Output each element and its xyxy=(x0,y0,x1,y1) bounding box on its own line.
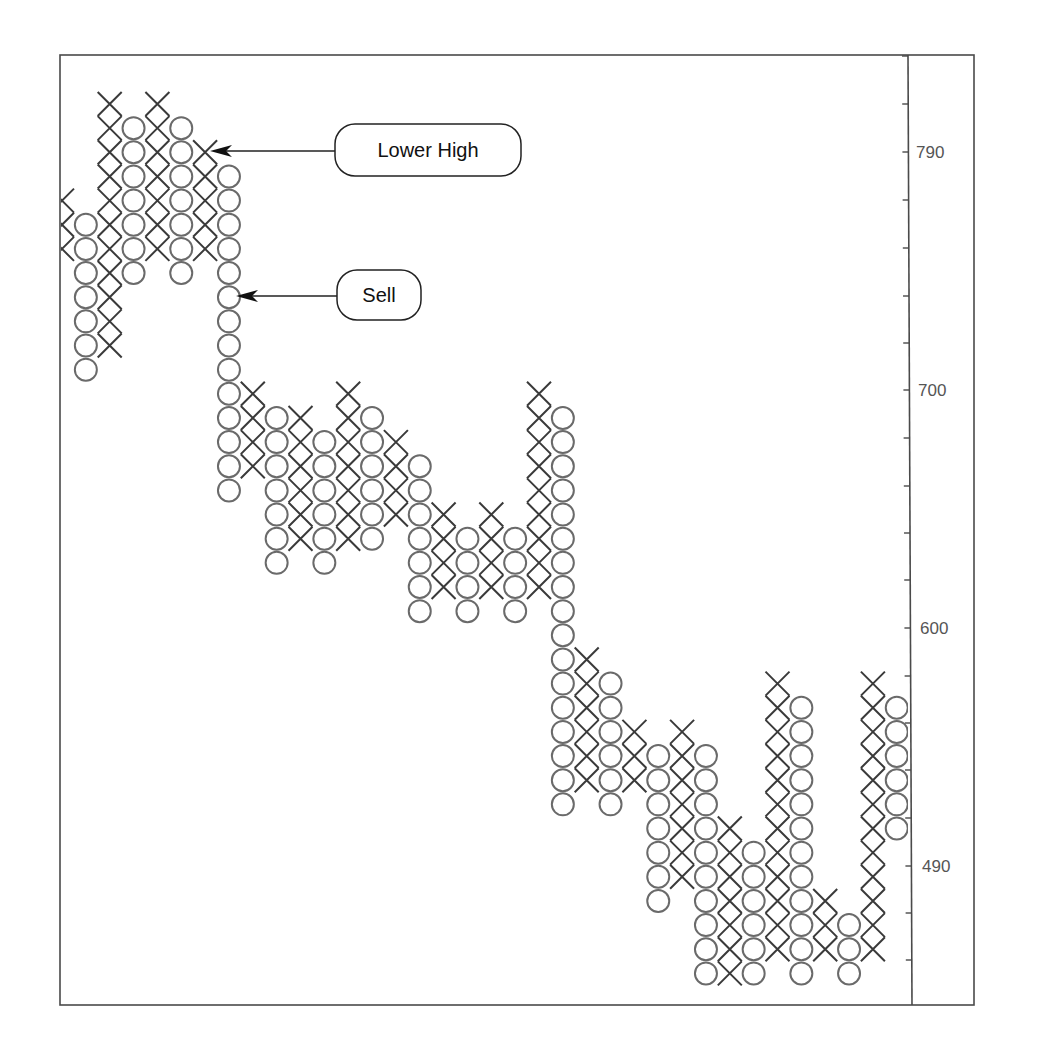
o-box xyxy=(218,479,240,501)
o-box xyxy=(409,455,431,477)
o-box xyxy=(456,528,478,550)
callout-lower-high: Lower High xyxy=(210,124,521,176)
o-box xyxy=(647,745,669,767)
o-box xyxy=(600,769,622,791)
o-box xyxy=(695,890,717,912)
x-box xyxy=(718,913,742,937)
o-box xyxy=(409,479,431,501)
x-box xyxy=(670,768,694,792)
x-box xyxy=(670,817,694,841)
o-box xyxy=(647,818,669,840)
o-box xyxy=(695,745,717,767)
x-box xyxy=(575,647,599,671)
x-box xyxy=(861,768,885,792)
callout-label: Lower High xyxy=(377,139,478,161)
x-box xyxy=(527,527,551,551)
x-box xyxy=(384,503,408,527)
x-box xyxy=(575,744,599,768)
o-box xyxy=(790,721,812,743)
x-box xyxy=(98,334,122,358)
x-box xyxy=(718,817,742,841)
x-box xyxy=(527,382,551,406)
o-box xyxy=(886,818,908,840)
o-box xyxy=(695,842,717,864)
o-box xyxy=(790,769,812,791)
x-box xyxy=(98,261,122,285)
x-box xyxy=(575,768,599,792)
x-box xyxy=(193,237,217,261)
o-box xyxy=(790,793,812,815)
x-box xyxy=(909,792,933,816)
o-box xyxy=(456,552,478,574)
o-box xyxy=(361,479,383,501)
x-box xyxy=(766,720,790,744)
y-axis-label-700: 700 xyxy=(918,381,946,400)
x-box xyxy=(336,478,360,502)
o-box xyxy=(75,214,97,236)
x-box xyxy=(813,937,837,961)
x-box xyxy=(909,768,933,792)
o-box xyxy=(552,793,574,815)
o-box xyxy=(790,890,812,912)
x-box xyxy=(384,454,408,478)
x-box xyxy=(813,889,837,913)
x-box xyxy=(861,672,885,696)
x-box xyxy=(670,720,694,744)
x-box xyxy=(527,551,551,575)
x-box xyxy=(861,889,885,913)
o-box xyxy=(266,407,288,429)
x-box xyxy=(766,865,790,889)
o-box xyxy=(552,769,574,791)
x-box xyxy=(241,406,265,430)
o-box xyxy=(647,769,669,791)
o-box xyxy=(552,504,574,526)
x-box xyxy=(336,503,360,527)
o-box xyxy=(790,697,812,719)
o-box xyxy=(218,310,240,332)
o-box xyxy=(743,866,765,888)
o-box xyxy=(695,962,717,984)
o-box xyxy=(456,576,478,598)
o-box xyxy=(790,818,812,840)
o-box xyxy=(266,479,288,501)
x-box xyxy=(98,92,122,116)
o-box xyxy=(743,842,765,864)
x-box xyxy=(193,140,217,164)
o-box xyxy=(266,504,288,526)
x-box xyxy=(241,382,265,406)
x-box xyxy=(50,237,74,261)
o-box xyxy=(409,600,431,622)
o-box xyxy=(75,262,97,284)
x-box xyxy=(718,889,742,913)
x-box xyxy=(432,503,456,527)
o-box xyxy=(218,359,240,381)
x-box xyxy=(479,527,503,551)
x-box xyxy=(718,841,742,865)
x-box xyxy=(861,720,885,744)
o-box xyxy=(647,866,669,888)
o-box xyxy=(743,962,765,984)
x-box xyxy=(861,696,885,720)
x-box xyxy=(766,913,790,937)
x-box xyxy=(145,189,169,213)
x-box xyxy=(98,213,122,237)
o-box xyxy=(647,842,669,864)
x-box xyxy=(50,189,74,213)
x-box xyxy=(861,792,885,816)
x-box xyxy=(718,865,742,889)
x-box xyxy=(766,744,790,768)
o-box xyxy=(170,238,192,260)
o-box xyxy=(552,745,574,767)
x-box xyxy=(432,575,456,599)
o-box xyxy=(313,479,335,501)
y-axis-label-600: 600 xyxy=(920,619,948,638)
o-box xyxy=(75,335,97,357)
o-box xyxy=(743,914,765,936)
o-box xyxy=(361,407,383,429)
o-box xyxy=(123,238,145,260)
o-box xyxy=(218,214,240,236)
x-box xyxy=(766,889,790,913)
x-box xyxy=(766,937,790,961)
o-box xyxy=(552,721,574,743)
x-box xyxy=(479,551,503,575)
